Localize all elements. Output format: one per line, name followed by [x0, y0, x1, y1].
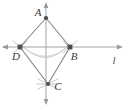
label-A: A — [34, 6, 42, 18]
point-marker-C — [46, 82, 50, 86]
label-line-l: l — [112, 54, 115, 66]
label-C: C — [54, 80, 62, 92]
geometry-figure: A B C D l — [0, 0, 127, 107]
point-marker-A — [44, 16, 48, 20]
vertical-axis-arrow-up — [44, 2, 49, 8]
label-D: D — [11, 50, 20, 62]
point-marker-D — [18, 45, 23, 50]
line-l-arrow-left — [2, 45, 8, 50]
vertical-axis-arrow-down — [44, 99, 49, 105]
point-markers — [18, 16, 73, 86]
arc-from-B — [22, 47, 68, 57]
segment-DC — [20, 47, 48, 84]
construction-arcs — [21, 44, 69, 58]
line-l-arrow-right — [117, 45, 123, 50]
label-B: B — [71, 50, 78, 62]
geometry-canvas: A B C D l — [0, 0, 127, 107]
construction-marks — [13, 20, 77, 89]
point-marker-B — [68, 45, 73, 50]
